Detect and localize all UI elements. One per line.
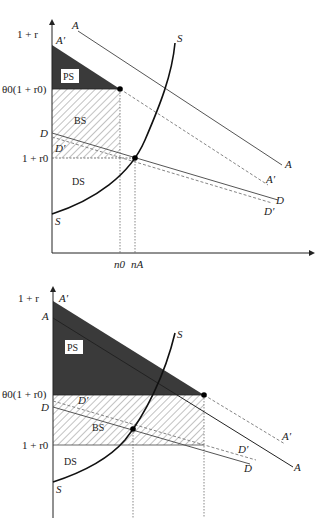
bottom-chart: PS BS DS 1 + r A′ A θ0(1 + r0) D D′ 1 + … — [2, 289, 301, 518]
equilibrium-dot-theta — [201, 392, 207, 398]
one-r0-label: 1 + r0 — [22, 152, 49, 164]
equilibrium-dot-theta — [117, 86, 123, 92]
d-axis-label: D — [40, 401, 49, 413]
a-prime-axis-label: A′ — [55, 34, 66, 46]
a-prime-curve — [120, 89, 268, 185]
ds-label: DS — [72, 176, 85, 187]
d-prime-inner-label: D′ — [77, 394, 89, 406]
s-bottom-label: S — [55, 215, 61, 227]
y-axis-label: 1 + r — [18, 292, 39, 304]
ps-label: PS — [63, 71, 74, 82]
d-end-label: D — [243, 462, 252, 474]
ps-label: PS — [67, 342, 78, 353]
a-prime-end-label: A′ — [281, 430, 292, 442]
diagram-canvas: PS BS DS 1 + r A′ A θ0(1 + r0) D D′ 1 + … — [0, 0, 316, 518]
theta-label: θ0(1 + r0) — [2, 83, 47, 96]
a-top-label: A — [71, 19, 79, 31]
a-prime-axis-label: A′ — [58, 292, 69, 304]
one-r0-label: 1 + r0 — [22, 439, 49, 451]
d-prime-inner-label: D′ — [54, 142, 66, 154]
s-top-label: S — [177, 328, 183, 340]
a-axis-label: A — [41, 310, 49, 322]
y-axis-label: 1 + r — [17, 28, 38, 40]
bs-region — [53, 395, 204, 445]
theta-label: θ0(1 + r0) — [2, 388, 47, 401]
ds-label: DS — [64, 456, 77, 467]
bs-label: BS — [74, 115, 86, 126]
s-top-label: S — [177, 32, 183, 44]
s-bottom-label: S — [56, 483, 62, 495]
d-end-label: D — [275, 194, 284, 206]
d-axis-label: D — [39, 127, 48, 139]
nA-label: nA — [131, 258, 144, 270]
d-prime-end-label: D′ — [263, 205, 275, 217]
d-curve — [52, 133, 278, 200]
a-prime-end-label: A′ — [265, 173, 276, 185]
a-end-label: A — [284, 158, 292, 170]
equilibrium-dot-r0 — [130, 426, 136, 432]
d-prime-end-label: D′ — [237, 443, 249, 455]
bs-label: BS — [92, 422, 104, 433]
n0-label: n0 — [114, 258, 126, 270]
top-chart: PS BS DS 1 + r A′ A θ0(1 + r0) D D′ 1 + … — [2, 19, 312, 270]
equilibrium-dot-r0 — [132, 155, 138, 161]
a-end-label: A — [293, 461, 301, 473]
